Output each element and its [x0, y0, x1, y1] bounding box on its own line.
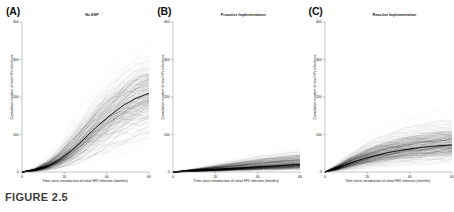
- panel-a-xlabel: Time since introduction of initial HIV i…: [20, 180, 150, 184]
- svg-text:0: 0: [17, 170, 19, 174]
- panel-c: (C) Reactive Implementation 010020030040…: [303, 0, 454, 190]
- svg-text:0: 0: [324, 175, 326, 179]
- panel-b-ylabel-text: Cumulative number of new HIV infections: [159, 26, 167, 148]
- panel-b: (B) Proactive Implementation 01002003004…: [151, 0, 302, 190]
- panel-c-svg: 01002003004000204060: [303, 0, 454, 190]
- figure-caption: FIGURE 2.5: [5, 192, 68, 203]
- panel-a-ylabel-text: Cumulative number of new HIV infections: [8, 26, 16, 148]
- panel-b-plot: 01002003004000204060: [151, 0, 302, 190]
- panel-a: (A) No ESP 01002003004000204060 Cumulati…: [0, 0, 151, 190]
- svg-text:0: 0: [168, 170, 170, 174]
- panel-row: (A) No ESP 01002003004000204060 Cumulati…: [0, 0, 454, 190]
- figure-container: (A) No ESP 01002003004000204060 Cumulati…: [0, 0, 454, 212]
- panel-a-plot: 01002003004000204060: [0, 0, 151, 190]
- svg-text:0: 0: [319, 170, 321, 174]
- panel-b-xlabel: Time since introduction of initial HIV i…: [171, 180, 301, 184]
- panel-b-ylabel: Cumulative number of new HIV infections: [159, 0, 167, 26]
- panel-c-ylabel: Cumulative number of new HIV infections: [311, 0, 319, 26]
- svg-text:0: 0: [21, 175, 23, 179]
- panel-b-svg: 01002003004000204060: [151, 0, 302, 190]
- svg-text:60: 60: [450, 175, 454, 179]
- panel-a-svg: 01002003004000204060: [0, 0, 151, 190]
- panel-c-ylabel-text: Cumulative number of new HIV infections: [311, 26, 319, 148]
- svg-text:0: 0: [172, 175, 174, 179]
- panel-c-xlabel: Time since introduction of initial HIV i…: [323, 180, 453, 184]
- panel-a-ylabel: Cumulative number of new HIV infections: [8, 0, 16, 26]
- panel-c-plot: 01002003004000204060: [303, 0, 454, 190]
